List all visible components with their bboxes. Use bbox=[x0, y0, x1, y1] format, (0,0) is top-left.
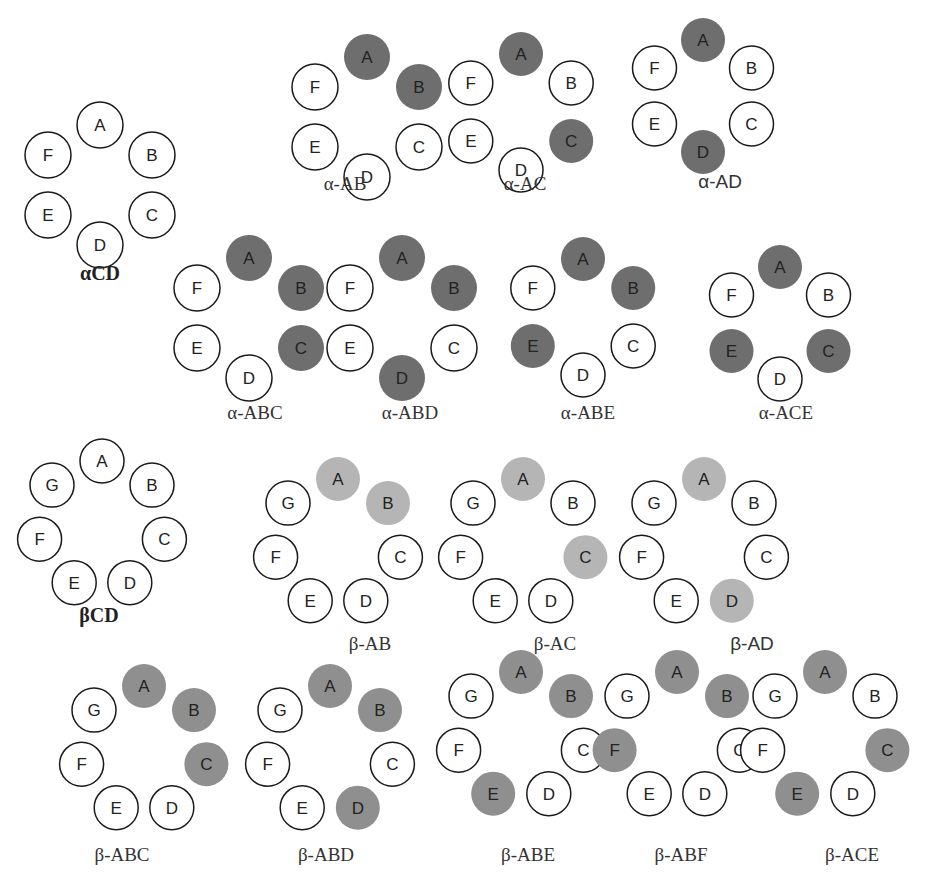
glucose-unit-a-substituted: A bbox=[561, 237, 605, 281]
glucose-unit-e: E bbox=[25, 192, 71, 238]
svg-text:C: C bbox=[146, 206, 158, 225]
svg-text:E: E bbox=[792, 785, 803, 804]
svg-text:A: A bbox=[94, 116, 106, 135]
svg-text:D: D bbox=[360, 592, 372, 611]
svg-text:A: A bbox=[138, 677, 150, 696]
glucose-unit-f: F bbox=[246, 742, 290, 786]
glucose-unit-f: F bbox=[292, 64, 338, 110]
glucose-unit-d: D bbox=[527, 772, 571, 816]
svg-text:B: B bbox=[567, 494, 578, 513]
glucose-unit-d-substituted: D bbox=[681, 130, 725, 174]
svg-text:A: A bbox=[774, 258, 786, 277]
svg-text:C: C bbox=[386, 755, 398, 774]
svg-text:F: F bbox=[310, 78, 320, 97]
glucose-unit-c-substituted: C bbox=[865, 728, 909, 772]
glucose-unit-f-substituted: F bbox=[593, 728, 637, 772]
glucose-unit-f: F bbox=[741, 728, 785, 772]
glucose-unit-d: D bbox=[226, 355, 272, 401]
svg-text:D: D bbox=[577, 366, 589, 385]
svg-text:F: F bbox=[649, 59, 659, 78]
svg-text:F: F bbox=[726, 286, 736, 305]
ring-diagram-beta-ab: CDEFGABβ-AB bbox=[254, 457, 423, 654]
svg-text:B: B bbox=[721, 687, 732, 706]
glucose-unit-e: E bbox=[633, 102, 677, 146]
glucose-unit-f: F bbox=[174, 265, 220, 311]
ring-diagram-beta-abf: CDEGABFβ-ABF bbox=[593, 650, 762, 865]
svg-text:D: D bbox=[774, 370, 786, 389]
svg-text:C: C bbox=[565, 132, 577, 151]
glucose-unit-b-substituted: B bbox=[358, 688, 402, 732]
cyclodextrin-substitution-figure: ABCDEFαCDCDEFABα-ABBDEFACα-ACBCEFADα-ADD… bbox=[0, 0, 929, 887]
svg-text:D: D bbox=[545, 592, 557, 611]
ring-diagram-beta-ac: BDEFGACβ-AC bbox=[439, 457, 608, 654]
svg-text:A: A bbox=[515, 45, 527, 64]
glucose-unit-f: F bbox=[327, 265, 373, 311]
svg-text:A: A bbox=[671, 663, 683, 682]
ring-diagram-alpha-ace: BDFACEα-ACE bbox=[710, 245, 851, 423]
svg-text:E: E bbox=[191, 339, 202, 358]
glucose-unit-g: G bbox=[30, 463, 74, 507]
svg-text:F: F bbox=[76, 755, 86, 774]
glucose-unit-f: F bbox=[254, 535, 298, 579]
svg-text:F: F bbox=[757, 741, 767, 760]
svg-text:C: C bbox=[200, 755, 212, 774]
ring-diagram-beta-abe: CDFGABEβ-ABE bbox=[437, 650, 606, 865]
glucose-unit-b-substituted: B bbox=[549, 674, 593, 718]
glucose-unit-c: C bbox=[396, 124, 442, 170]
glucose-unit-e: E bbox=[52, 561, 96, 605]
svg-text:C: C bbox=[413, 138, 425, 157]
glucose-unit-c: C bbox=[730, 102, 774, 146]
glucose-unit-b: B bbox=[549, 61, 593, 105]
glucose-unit-c: C bbox=[378, 535, 422, 579]
glucose-unit-b-substituted: B bbox=[278, 265, 324, 311]
glucose-unit-b-substituted: B bbox=[705, 674, 749, 718]
glucose-unit-g: G bbox=[72, 688, 116, 732]
ring-diagram-beta-cd: ABCDEFGβCD bbox=[18, 439, 187, 627]
svg-text:B: B bbox=[748, 494, 759, 513]
svg-text:G: G bbox=[281, 494, 294, 513]
glucose-unit-d-substituted: D bbox=[379, 355, 425, 401]
diagram-label: β-AD bbox=[730, 633, 774, 654]
svg-text:C: C bbox=[577, 741, 589, 760]
glucose-unit-b: B bbox=[807, 273, 851, 317]
svg-text:C: C bbox=[881, 741, 893, 760]
svg-text:C: C bbox=[627, 337, 639, 356]
svg-text:B: B bbox=[188, 701, 199, 720]
diagram-label: β-ABE bbox=[501, 844, 555, 865]
glucose-unit-d: D bbox=[831, 772, 875, 816]
glucose-unit-g: G bbox=[753, 674, 797, 718]
svg-text:A: A bbox=[243, 249, 255, 268]
glucose-unit-f: F bbox=[449, 61, 493, 105]
glucose-unit-b: B bbox=[129, 132, 175, 178]
svg-text:E: E bbox=[527, 337, 538, 356]
svg-text:G: G bbox=[768, 687, 781, 706]
glucose-unit-g: G bbox=[451, 481, 495, 525]
glucose-unit-d: D bbox=[344, 579, 388, 623]
glucose-unit-f: F bbox=[25, 132, 71, 178]
svg-text:E: E bbox=[490, 592, 501, 611]
svg-text:E: E bbox=[649, 115, 660, 134]
glucose-unit-e-substituted: E bbox=[710, 329, 754, 373]
svg-text:A: A bbox=[697, 31, 709, 50]
diagram-label: β-AC bbox=[534, 633, 576, 654]
svg-text:B: B bbox=[146, 476, 157, 495]
ring-diagram-beta-ace: BDFGACEβ-ACE bbox=[741, 650, 910, 865]
glucose-unit-b: B bbox=[730, 46, 774, 90]
svg-text:E: E bbox=[111, 799, 122, 818]
svg-text:D: D bbox=[697, 143, 709, 162]
glucose-unit-b-substituted: B bbox=[396, 64, 442, 110]
svg-text:F: F bbox=[270, 548, 280, 567]
glucose-unit-f: F bbox=[633, 46, 677, 90]
ring-diagram-alpha-abc: DEFABCα-ABC bbox=[174, 235, 324, 423]
svg-text:D: D bbox=[243, 369, 255, 388]
svg-text:C: C bbox=[760, 548, 772, 567]
glucose-unit-a-substituted: A bbox=[344, 34, 390, 80]
svg-text:E: E bbox=[309, 138, 320, 157]
svg-text:F: F bbox=[528, 279, 538, 298]
svg-text:B: B bbox=[382, 494, 393, 513]
diagram-label: α-ACE bbox=[759, 402, 813, 423]
glucose-unit-c-substituted: C bbox=[278, 325, 324, 371]
diagram-label: α-AD bbox=[698, 171, 742, 192]
glucose-unit-c: C bbox=[431, 325, 477, 371]
glucose-unit-a-substituted: A bbox=[226, 235, 272, 281]
